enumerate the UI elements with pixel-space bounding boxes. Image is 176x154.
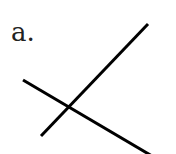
intersecting-lines bbox=[0, 0, 176, 154]
line-falling bbox=[23, 80, 152, 154]
diagram-canvas: a. bbox=[0, 0, 176, 154]
line-rising bbox=[41, 24, 148, 136]
